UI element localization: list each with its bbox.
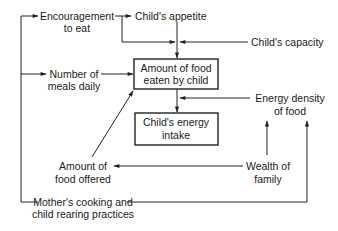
food-offered-line-1: Amount of (59, 160, 107, 172)
meals-line-2: meals daily (48, 80, 101, 92)
food-offered-line-2: food offered (55, 173, 111, 185)
node-energy-density: Energy density of food (255, 92, 325, 117)
node-mother: Mother's cooking and child rearing pract… (32, 196, 134, 220)
mother-line-2: child rearing practices (32, 208, 134, 220)
energy-density-line-1: Energy density (255, 92, 325, 104)
node-food-offered: Amount of food offered (55, 160, 111, 185)
meals-line-1: Number of (49, 68, 98, 80)
encouragement-line-1: Encouragement (40, 10, 114, 22)
node-appetite: Child's appetite (135, 10, 207, 22)
node-encouragement: Encouragement to eat (40, 10, 114, 34)
node-wealth: Wealth of family (246, 160, 290, 185)
node-capacity: Child's capacity (251, 36, 324, 48)
wealth-line-1: Wealth of (246, 160, 290, 172)
appetite-label: Child's appetite (135, 10, 207, 22)
node-meals: Number of meals daily (48, 68, 101, 92)
edge-mother-to-encouragement (21, 16, 38, 202)
energy-intake-line-1: Child's energy (143, 116, 210, 128)
mother-line-1: Mother's cooking and (33, 196, 133, 208)
diagram-canvas: Encouragement to eat Child's appetite Ch… (0, 0, 338, 231)
energy-density-line-2: of food (274, 105, 306, 117)
amount-eaten-line-1: Amount of food (140, 62, 211, 74)
edge-food-offered-to-amount-eaten (92, 91, 133, 157)
node-amount-eaten: Amount of food eaten by child (140, 62, 211, 86)
wealth-line-2: family (254, 173, 282, 185)
encouragement-line-2: to eat (64, 22, 90, 34)
energy-intake-line-2: intake (162, 129, 190, 141)
capacity-label: Child's capacity (251, 36, 324, 48)
amount-eaten-line-2: eaten by child (144, 74, 209, 86)
